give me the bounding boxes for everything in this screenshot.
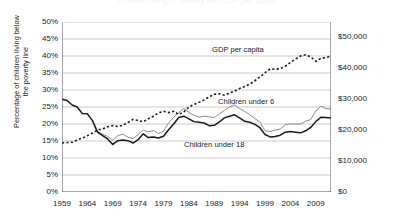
y-axis-left-tick-label: 45% <box>24 35 58 43</box>
annotation-children-under-18: Children under 18 <box>184 140 244 149</box>
y-axis-left-tick-label: 40% <box>24 52 58 60</box>
plot-area <box>62 22 331 192</box>
chart-root: Children living in poverty and GDP per c… <box>0 0 394 224</box>
y-axis-right-tick-label: $10,000 <box>338 157 382 165</box>
y-axis-left-tick-label: 20% <box>24 120 58 128</box>
y-axis-left-tick-label: 15% <box>24 137 58 145</box>
y-axis-left-tick-label: 50% <box>24 18 58 26</box>
y-axis-right-tick-label: $50,000 <box>338 33 382 41</box>
y-axis-left-tick-label: 0% <box>24 188 58 196</box>
y-axis-left-tick-label: 35% <box>24 69 58 77</box>
y-axis-left-tick-label: 30% <box>24 86 58 94</box>
x-axis-tick-label: 2009 <box>301 200 331 208</box>
series-line-gdp-per-capita <box>62 55 331 143</box>
y-axis-left-tick-label: 10% <box>24 154 58 162</box>
chart-title-cutoff: Children living in poverty and GDP per c… <box>62 0 332 6</box>
y-axis-right-tick-label: $20,000 <box>338 126 382 134</box>
y-axis-right-tick-label: $30,000 <box>338 95 382 103</box>
gridlines <box>62 39 331 175</box>
y-axis-left-tick-label: 25% <box>24 103 58 111</box>
y-axis-right-tick-label: $0 <box>338 188 382 196</box>
y-axis-right-tick-label: $40,000 <box>338 64 382 72</box>
series-line-children-under-18 <box>62 99 331 144</box>
series-line-children-under-6 <box>98 105 331 140</box>
annotation-children-under-6: Children under 6 <box>218 97 274 106</box>
annotation-gdp-per-capita: GDP per capita <box>212 45 264 54</box>
chart-svg <box>62 22 331 192</box>
y-axis-left-tick-label: 5% <box>24 171 58 179</box>
